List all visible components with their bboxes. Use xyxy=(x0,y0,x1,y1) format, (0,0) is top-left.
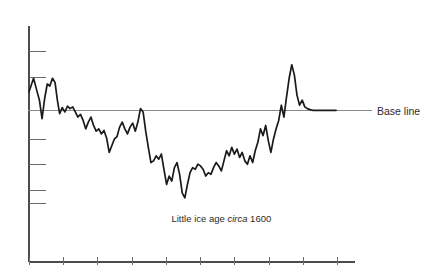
x-axis-group xyxy=(29,257,355,265)
y-axis-group xyxy=(29,26,46,262)
chart-canvas: Base line Little ice age circa 1600 xyxy=(0,0,435,277)
annotation-text-after: 1600 xyxy=(247,213,271,224)
x-axis-ticks xyxy=(30,257,338,265)
data-series-line xyxy=(29,65,336,198)
y-axis-ticks xyxy=(29,52,46,204)
annotation-text-emphasis: circa xyxy=(227,213,247,224)
little-ice-age-annotation: Little ice age circa 1600 xyxy=(171,213,271,224)
climate-line-chart: Base line Little ice age circa 1600 xyxy=(0,0,435,277)
annotation-text-before: Little ice age xyxy=(171,213,227,224)
base-line-label: Base line xyxy=(377,105,420,117)
